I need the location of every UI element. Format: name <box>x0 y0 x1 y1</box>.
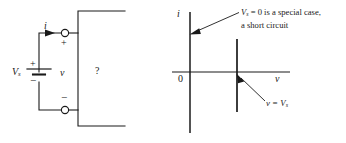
special-case-annotation: Vs = 0 is a special case,a short circuit <box>241 7 321 31</box>
source-subscript: s <box>18 70 21 77</box>
special-case-arrowhead <box>190 28 201 34</box>
v-equals-vs-annotation: v = Vs <box>266 99 288 108</box>
origin-label: 0 <box>178 74 183 84</box>
circuit-iv-characteristic-figure: i Vs v ? + − + − i v 0 Vs = 0 is a speci… <box>0 0 346 143</box>
v-equals-vs-leader <box>237 74 266 102</box>
bottom-wire <box>39 82 61 110</box>
terminal-minus-sign: − <box>61 92 67 103</box>
special-case-leader <box>190 13 240 35</box>
battery-plus-sign: + <box>30 59 36 69</box>
circuit-source-label: Vs <box>12 67 21 78</box>
top-terminal-node <box>61 29 68 36</box>
special-case-line1-rest: = 0 is a special case, <box>249 7 321 17</box>
v-equals-vs-subscript: s <box>286 102 288 108</box>
battery-minus-sign: − <box>30 75 36 86</box>
top-wire <box>39 33 61 72</box>
unknown-element-box <box>78 11 125 126</box>
circuit-schematic <box>27 11 125 126</box>
special-case-line2: a short circuit <box>241 20 288 30</box>
circuit-terminal-voltage-label: v <box>60 68 64 78</box>
circuit-current-label: i <box>44 21 47 31</box>
bottom-terminal-node <box>61 106 68 113</box>
v-axis-label: v <box>275 74 279 84</box>
unknown-element-label: ? <box>95 66 99 76</box>
i-axis-label: i <box>177 9 180 19</box>
terminal-plus-sign: + <box>61 38 67 48</box>
v-equals-vs-text: v = V <box>266 98 286 108</box>
